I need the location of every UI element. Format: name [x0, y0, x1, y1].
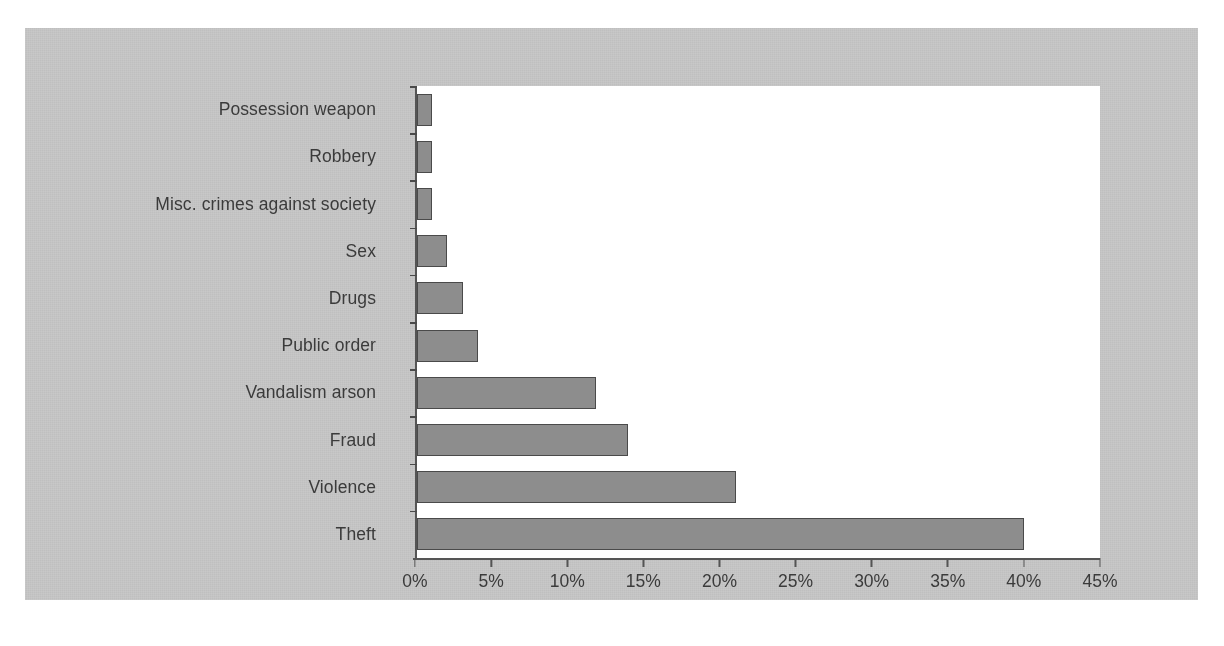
- value-tick: 45%: [1082, 558, 1117, 592]
- value-tick-mark: [871, 558, 873, 567]
- value-tick: 35%: [930, 558, 965, 592]
- value-tick: 20%: [702, 558, 737, 592]
- value-tick: 10%: [550, 558, 585, 592]
- bar: [417, 188, 432, 220]
- bar-row: [417, 133, 1100, 180]
- category-tick-mark: [410, 464, 417, 466]
- value-tick-label: 40%: [1006, 571, 1041, 592]
- value-tick: 5%: [478, 558, 503, 592]
- category-axis-label: Fraud: [330, 430, 385, 451]
- category-label-row: Possession weapon: [85, 86, 385, 133]
- category-label-row: Vandalism arson: [85, 369, 385, 416]
- value-tick-mark: [719, 558, 721, 567]
- bar: [417, 141, 432, 173]
- category-label-row: Drugs: [85, 275, 385, 322]
- bar: [417, 282, 463, 314]
- category-axis-label: Vandalism arson: [245, 382, 385, 403]
- category-tick-mark: [410, 416, 417, 418]
- bar-row: [417, 86, 1100, 133]
- value-tick-label: 20%: [702, 571, 737, 592]
- bar: [417, 235, 447, 267]
- value-tick-mark: [1099, 558, 1101, 567]
- bar-row: [417, 416, 1100, 463]
- category-tick-mark: [410, 133, 417, 135]
- bar-row: [417, 228, 1100, 275]
- category-axis-label: Sex: [346, 241, 385, 262]
- value-tick-label: 30%: [854, 571, 889, 592]
- bar-row: [417, 511, 1100, 558]
- value-tick: 25%: [778, 558, 813, 592]
- category-label-row: Violence: [85, 464, 385, 511]
- value-tick: 0%: [402, 558, 427, 592]
- bar: [417, 518, 1024, 550]
- value-axis: 0%5%10%15%20%25%30%35%40%45%: [415, 558, 1100, 559]
- bar: [417, 424, 628, 456]
- bar-row: [417, 275, 1100, 322]
- value-tick-mark: [643, 558, 645, 567]
- category-tick-mark: [410, 86, 417, 88]
- category-tick-mark: [410, 511, 417, 513]
- category-tick-mark: [410, 228, 417, 230]
- category-label-row: Sex: [85, 228, 385, 275]
- chart-figure-panel: Possession weaponRobberyMisc. crimes aga…: [25, 28, 1198, 600]
- value-tick-label: 25%: [778, 571, 813, 592]
- value-tick: 40%: [1006, 558, 1041, 592]
- category-label-row: Theft: [85, 511, 385, 558]
- bars-layer: [417, 86, 1100, 558]
- value-tick-mark: [795, 558, 797, 567]
- category-label-row: Public order: [85, 322, 385, 369]
- value-tick-mark: [566, 558, 568, 567]
- category-axis-label: Theft: [336, 524, 385, 545]
- category-axis-label: Robbery: [309, 146, 385, 167]
- category-axis-label: Misc. crimes against society: [155, 194, 385, 215]
- bar: [417, 330, 478, 362]
- bar: [417, 94, 432, 126]
- bar: [417, 471, 736, 503]
- category-label-row: Misc. crimes against society: [85, 180, 385, 227]
- value-tick-mark: [414, 558, 416, 567]
- category-tick-mark: [410, 322, 417, 324]
- bar-row: [417, 464, 1100, 511]
- value-tick-label: 10%: [550, 571, 585, 592]
- value-tick-label: 35%: [930, 571, 965, 592]
- category-axis-label: Violence: [308, 477, 385, 498]
- category-axis-label: Drugs: [329, 288, 385, 309]
- value-tick-mark: [1023, 558, 1025, 567]
- category-axis: Possession weaponRobberyMisc. crimes aga…: [85, 86, 385, 558]
- value-tick-label: 5%: [478, 571, 503, 592]
- bar-row: [417, 322, 1100, 369]
- category-axis-label: Public order: [281, 335, 385, 356]
- category-tick-mark: [410, 369, 417, 371]
- value-axis-line: [413, 558, 1100, 560]
- category-tick-mark: [410, 275, 417, 277]
- value-tick-label: 15%: [626, 571, 661, 592]
- value-tick: 15%: [626, 558, 661, 592]
- category-label-row: Robbery: [85, 133, 385, 180]
- value-tick-mark: [490, 558, 492, 567]
- value-tick-label: 45%: [1082, 571, 1117, 592]
- value-tick: 30%: [854, 558, 889, 592]
- bar-row: [417, 369, 1100, 416]
- category-tick-mark: [410, 180, 417, 182]
- value-tick-mark: [947, 558, 949, 567]
- plot-area: [415, 86, 1100, 558]
- bar-row: [417, 180, 1100, 227]
- bar: [417, 377, 596, 409]
- category-axis-label: Possession weapon: [219, 99, 385, 120]
- category-label-row: Fraud: [85, 416, 385, 463]
- value-tick-label: 0%: [402, 571, 427, 592]
